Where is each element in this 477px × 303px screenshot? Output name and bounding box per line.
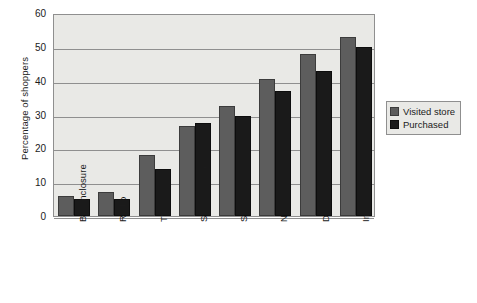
x-axis-tick-label: Store catalog: [238, 165, 249, 222]
y-axis-tick-label: 10: [2, 177, 46, 188]
legend-item-purchased: Purchased: [390, 118, 455, 131]
legend: Visited store Purchased: [386, 101, 461, 135]
x-axis-tick-label: Special event: [198, 164, 209, 222]
x-axis-tick-label: Newspaper ad: [278, 160, 289, 222]
x-axis-tick-label: Insertb: [359, 194, 371, 222]
bar-chart: Percentage of shoppers 6050403020100 Bil…: [0, 0, 477, 303]
y-axis-tick-label: 30: [2, 110, 46, 121]
y-axis-tick-label: 20: [2, 143, 46, 154]
bar-visited-store: [139, 155, 155, 216]
legend-label-purchased: Purchased: [403, 119, 448, 130]
legend-swatch-icon-purchased: [390, 120, 399, 129]
y-axis-tick-label: 40: [2, 76, 46, 87]
bar-group: [98, 15, 130, 216]
x-axis-tick-label: Bill enclosure: [77, 164, 88, 222]
legend-swatch-icon-visited-store: [390, 107, 399, 116]
legend-item-visited-store: Visited store: [390, 105, 455, 118]
bar-visited-store: [219, 106, 235, 216]
bar-visited-store: [58, 196, 74, 216]
y-axis-tick-label: 50: [2, 42, 46, 53]
bar-group: [340, 15, 372, 216]
y-axis-tick-label: 0: [2, 211, 46, 222]
y-axis-tick-label: 60: [2, 8, 46, 19]
x-axis-tick-label: DM flyera: [319, 182, 331, 222]
bar-visited-store: [259, 79, 275, 216]
x-axis-tick-label: Radio: [117, 197, 128, 222]
x-axis-tick-label: TV: [158, 210, 169, 222]
bar-visited-store: [179, 126, 195, 216]
bar-visited-store: [98, 192, 114, 216]
legend-label-visited-store: Visited store: [403, 106, 455, 117]
bar-visited-store: [300, 54, 316, 216]
bar-visited-store: [340, 37, 356, 216]
bar-purchased: [356, 47, 372, 216]
bar-group: [139, 15, 171, 216]
